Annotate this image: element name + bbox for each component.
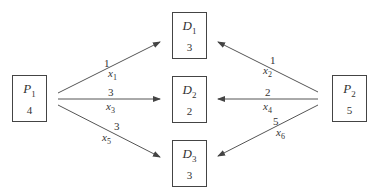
- destination-node-d1: D1 3: [172, 12, 207, 59]
- node-label: D2: [173, 82, 206, 100]
- node-label: D1: [173, 18, 206, 36]
- supply-value: 4: [13, 104, 46, 116]
- node-label: P2: [333, 81, 366, 99]
- source-node-p2: P2 5: [332, 75, 367, 122]
- edge-var-p1-d3: x5: [102, 132, 111, 147]
- demand-value: 3: [173, 169, 206, 181]
- destination-node-d2: D2 2: [172, 76, 207, 123]
- node-label: D3: [173, 146, 206, 164]
- edge-var-p1-d1: x1: [108, 68, 117, 83]
- node-label: P1: [13, 81, 46, 99]
- edge-var-p1-d2: x3: [106, 101, 115, 116]
- demand-value: 2: [173, 105, 206, 117]
- edge-var-p2-d1: x2: [263, 65, 272, 80]
- edge-var-p2-d2: x4: [263, 101, 272, 116]
- edge-cost-p2-d2: 2: [265, 87, 271, 98]
- demand-value: 3: [173, 41, 206, 53]
- source-node-p1: P1 4: [12, 75, 47, 122]
- destination-node-d3: D3 3: [172, 140, 207, 187]
- edge-var-p2-d3: x6: [276, 127, 285, 142]
- edge-cost-p1-d3: 3: [114, 121, 120, 132]
- edge-cost-p1-d2: 3: [108, 87, 114, 98]
- supply-value: 5: [333, 104, 366, 116]
